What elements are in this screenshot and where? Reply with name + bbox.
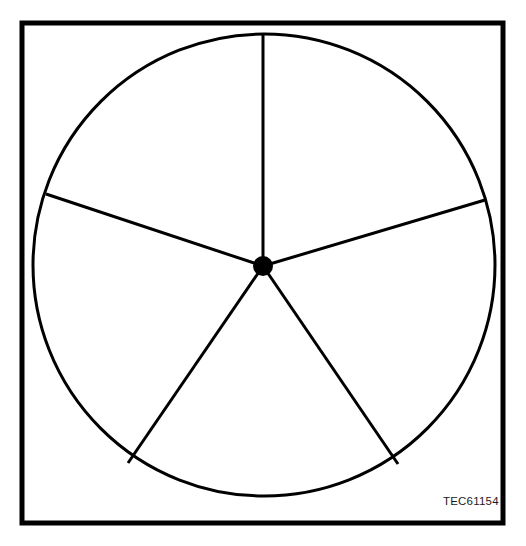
figure-root: · · · · · ·· ·· TEC61154 <box>0 0 526 546</box>
figure-code-label: TEC61154 <box>443 495 499 508</box>
wheel-diagram <box>0 0 526 546</box>
center-hub <box>253 256 273 276</box>
